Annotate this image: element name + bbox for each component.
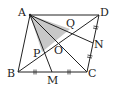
label-o: O xyxy=(54,44,63,57)
label-a: A xyxy=(17,6,27,19)
vertex-a-dot xyxy=(29,14,31,16)
label-q: Q xyxy=(66,17,75,30)
label-p: P xyxy=(33,47,41,60)
label-c: C xyxy=(88,67,96,80)
label-b: B xyxy=(7,67,15,80)
label-d: D xyxy=(100,6,109,19)
label-n: N xyxy=(94,38,104,51)
label-m: M xyxy=(47,74,58,87)
geometry-figure: A D B C M N O P Q xyxy=(0,0,114,89)
